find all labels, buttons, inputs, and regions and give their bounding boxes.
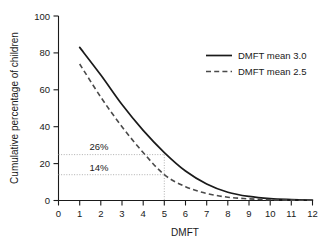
y-axis-ticks <box>54 16 59 201</box>
legend-label-dmft-mean-3-0: DMFT mean 3.0 <box>238 50 306 61</box>
x-tick-label-7: 7 <box>204 208 209 219</box>
x-tick-label-10: 10 <box>265 208 276 219</box>
chart-figure: 100 80 60 40 20 0 0 1 2 <box>0 0 324 250</box>
x-tick-label-3: 3 <box>119 208 124 219</box>
y-tick-label-100: 100 <box>34 11 50 22</box>
x-tick-label-9: 9 <box>246 208 251 219</box>
y-axis-tick-labels: 100 80 60 40 20 0 <box>34 11 50 207</box>
y-tick-label-20: 20 <box>39 158 50 169</box>
x-tick-label-4: 4 <box>141 208 146 219</box>
x-tick-label-1: 1 <box>77 208 82 219</box>
x-tick-label-5: 5 <box>162 208 167 219</box>
x-tick-label-2: 2 <box>98 208 103 219</box>
annotation-14-percent: 14% <box>89 162 109 173</box>
y-tick-label-60: 60 <box>39 84 50 95</box>
x-axis-ticks <box>59 201 313 206</box>
x-tick-label-12: 12 <box>307 208 318 219</box>
x-axis-tick-labels: 0 1 2 3 4 5 6 7 8 9 10 11 12 <box>56 208 318 219</box>
reference-lines <box>59 155 165 201</box>
x-tick-label-0: 0 <box>56 208 61 219</box>
x-tick-label-11: 11 <box>286 208 296 219</box>
y-tick-label-40: 40 <box>39 121 50 132</box>
legend-label-dmft-mean-2-5: DMFT mean 2.5 <box>238 66 306 77</box>
figure-caption <box>0 241 324 250</box>
x-axis-title: DMFT <box>171 227 199 238</box>
x-tick-label-8: 8 <box>225 208 230 219</box>
annotations: 26% 14% <box>89 141 109 173</box>
y-tick-label-80: 80 <box>39 47 50 58</box>
x-tick-label-6: 6 <box>183 208 188 219</box>
legend: DMFT mean 3.0 DMFT mean 2.5 <box>206 50 306 77</box>
y-tick-label-0: 0 <box>45 195 50 206</box>
annotation-26-percent: 26% <box>89 141 109 152</box>
cumulative-dmft-line-chart: 100 80 60 40 20 0 0 1 2 <box>0 0 324 250</box>
series-line-dmft-mean-2-5 <box>80 64 313 200</box>
y-axis-title: Cumulative percentage of children <box>9 32 20 184</box>
